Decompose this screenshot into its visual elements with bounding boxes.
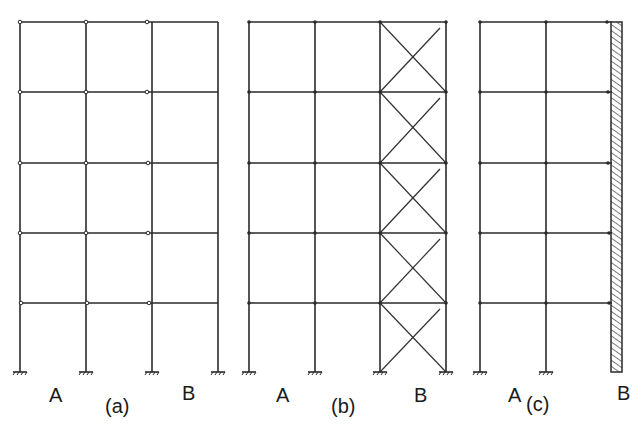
frame-a-supports xyxy=(13,372,225,375)
label-b-left: A xyxy=(276,385,289,405)
caption-a: (a) xyxy=(105,396,129,416)
label-a-left: A xyxy=(49,385,62,405)
label-a-right: B xyxy=(182,383,195,403)
label-b-right: B xyxy=(414,385,427,405)
frame-c xyxy=(480,22,612,372)
frame-b xyxy=(249,22,446,372)
frame-b-supports xyxy=(242,372,453,375)
frame-c-supports xyxy=(473,372,553,375)
label-c-left: A xyxy=(508,385,521,405)
frame-a xyxy=(20,22,218,372)
shear-wall-b xyxy=(611,22,622,372)
frame-b-x-bracing xyxy=(380,22,446,372)
label-c-right: B xyxy=(617,383,630,403)
caption-c: (c) xyxy=(526,394,549,414)
structural-frames-diagram xyxy=(0,0,642,426)
caption-b: (b) xyxy=(331,396,355,416)
